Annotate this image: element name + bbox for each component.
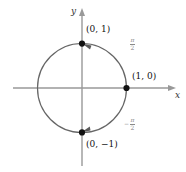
- unit-circle-figure: y x (0, 1) (1, 0) (0, −1) π 2 − π 2: [0, 0, 186, 172]
- y-axis-label: y: [71, 7, 76, 16]
- arc-label-negative-pi-over-2-fraction: π 2: [130, 117, 136, 131]
- arc-label-negative-pi-over-2-denominator: 2: [130, 125, 136, 131]
- point-label-right: (1, 0): [132, 72, 156, 81]
- point-top-dot: [79, 41, 85, 47]
- arc-label-pi-over-2-denominator: 2: [130, 45, 136, 51]
- arc-label-pi-over-2-fraction: π 2: [130, 37, 136, 51]
- arc-label-pi-over-2: π 2: [129, 37, 135, 51]
- y-axis: [79, 8, 85, 166]
- point-label-bottom: (0, −1): [86, 140, 118, 149]
- arc-label-pi-over-2-numerator: π: [130, 37, 136, 43]
- x-axis-label: x: [175, 91, 180, 100]
- arc-label-negative-pi-over-2-sign: −: [124, 121, 129, 127]
- arc-label-negative-pi-over-2: − π 2: [124, 117, 135, 131]
- point-bottom-dot: [79, 129, 85, 135]
- point-right-dot: [123, 85, 129, 91]
- arc-label-negative-pi-over-2-numerator: π: [130, 117, 136, 123]
- point-label-top: (0, 1): [86, 25, 110, 34]
